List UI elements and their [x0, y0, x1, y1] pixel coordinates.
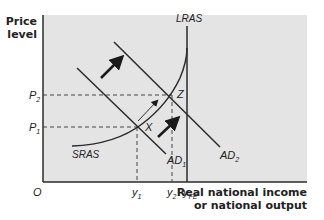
sras-label: SRAS: [72, 149, 100, 160]
y-axis-title-line1: Price: [6, 15, 37, 28]
p1-label: P1: [29, 121, 40, 135]
y1-label: y1: [131, 186, 142, 200]
p2-label: P2: [29, 89, 40, 103]
y-axis-title-line2: level: [7, 28, 37, 41]
point-x-label: X: [144, 121, 153, 133]
point-z-label: Z: [176, 88, 185, 100]
y2-label: y2: [166, 186, 177, 200]
origin-label: O: [33, 186, 42, 198]
ad-as-diagram: Price level Real national income or nati…: [0, 0, 324, 220]
x-axis-title-line2: or national output: [194, 199, 307, 212]
lras-label: LRAS: [176, 13, 202, 24]
